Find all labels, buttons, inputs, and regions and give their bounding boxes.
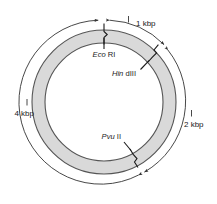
one-kbp-label: 1 kbp xyxy=(136,19,156,28)
plasmid-restriction-map-figure: Eco RI Hin dIII Pvu II 1 kbp 2 kbp 4 kbp xyxy=(0,0,217,204)
eco-ri-label-genus: Eco xyxy=(93,50,106,59)
four-kbp-label: 4 kbp xyxy=(14,109,34,118)
eco-ri-label-suffix: RI xyxy=(106,50,116,59)
pvu-ii-label-genus: Pvu xyxy=(102,132,116,141)
eco-ri-label: Eco RI xyxy=(93,50,116,59)
hin-diii-label-genus: Hin xyxy=(112,69,123,78)
hin-diii-label-suffix: dIII xyxy=(123,69,136,78)
ring-inner-circle xyxy=(45,43,163,161)
hin-diii-label: Hin dIII xyxy=(112,69,136,78)
plasmid-diagram: Eco RI Hin dIII Pvu II 1 kbp 2 kbp 4 kbp xyxy=(0,0,217,204)
pvu-ii-label: Pvu II xyxy=(102,132,121,141)
two-kbp-label: 2 kbp xyxy=(184,120,204,129)
pvu-ii-label-suffix: II xyxy=(115,132,121,141)
